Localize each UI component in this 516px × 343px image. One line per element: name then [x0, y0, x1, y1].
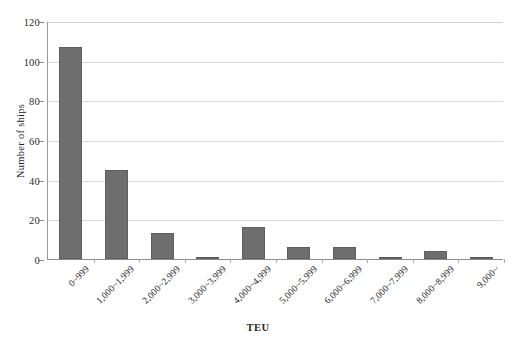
bar	[105, 170, 128, 259]
bars-group	[48, 22, 503, 259]
x-axis-tick	[230, 259, 231, 263]
x-axis-tick-label: 4,000~4,999	[232, 264, 274, 306]
x-axis-tick	[367, 259, 368, 263]
x-axis-tick	[94, 259, 95, 263]
x-axis-tick	[413, 259, 414, 263]
bar	[333, 247, 356, 259]
x-axis-tick-label: 0~999	[66, 264, 90, 288]
x-axis-tick	[185, 259, 186, 263]
bar	[424, 251, 447, 259]
bar	[151, 233, 174, 259]
x-axis-tick	[139, 259, 140, 263]
plot-area: 020406080100120	[47, 22, 503, 260]
y-axis-tick-label: 80	[29, 96, 40, 107]
bar	[287, 247, 310, 259]
y-axis-tick-label: 40	[29, 175, 40, 186]
x-axis-tick-label: 7,000~7,999	[368, 264, 410, 306]
x-axis-tick	[322, 259, 323, 263]
x-axis-tick-label: 6,000~6,999	[323, 264, 365, 306]
x-axis-tick-label: 3,000~3,999	[186, 264, 228, 306]
x-axis-tick-label: 8,000~8,999	[414, 264, 456, 306]
y-axis-tick-label: 100	[24, 56, 40, 67]
bar	[196, 257, 219, 259]
y-axis-tick-label: 120	[24, 17, 40, 28]
x-axis-tick-label: 2,000~2,999	[140, 264, 182, 306]
bar	[59, 47, 82, 259]
y-axis-title: Number of ships	[15, 104, 26, 179]
chart-container: Number of ships 020406080100120 0~9991,0…	[0, 0, 516, 343]
x-axis-tick-label: 9,000~	[475, 264, 501, 290]
x-axis-tick	[458, 259, 459, 263]
y-axis-tick-label: 60	[29, 136, 40, 147]
y-axis-tick-label: 20	[29, 215, 40, 226]
x-axis-tick-label: 1,000~1,999	[95, 264, 137, 306]
bar	[379, 257, 402, 259]
bar	[470, 257, 493, 259]
x-axis-tick-label: 5,000~5,999	[277, 264, 319, 306]
y-axis-tick-label: 0	[35, 255, 40, 266]
x-axis-tick	[276, 259, 277, 263]
bar	[242, 227, 265, 259]
x-axis-title: TEU	[0, 322, 516, 333]
x-axis-tick	[504, 259, 505, 263]
